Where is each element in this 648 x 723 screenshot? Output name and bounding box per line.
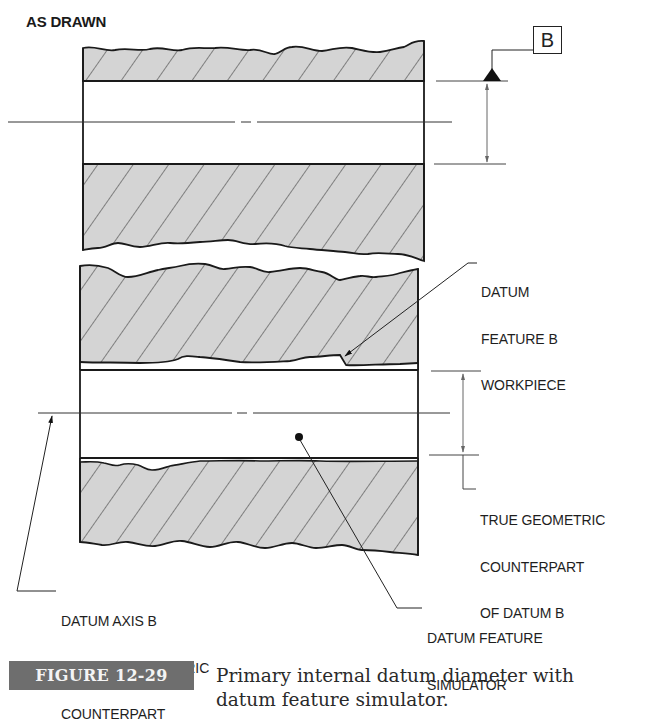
leader-datum-axis [17,416,56,591]
figure-caption: Primary internal datum diameter with dat… [216,664,574,712]
as-drawn-part [8,41,533,261]
datum-feature-symbol [483,50,533,81]
as-drawn-title: AS DRAWN [26,13,106,30]
callout-datum-feature-workpiece: DATUM FEATURE B WORKPIECE [481,254,566,425]
callout-datum-axis-b: DATUM AXIS B OF TRUE GEOMETRIC COUNTERPA… [61,583,209,723]
datum-letter-box: B [533,26,562,54]
simulator-point [295,433,303,441]
figure-number-badge: FIGURE 12-29 [9,661,194,690]
simulator-part [17,263,481,608]
